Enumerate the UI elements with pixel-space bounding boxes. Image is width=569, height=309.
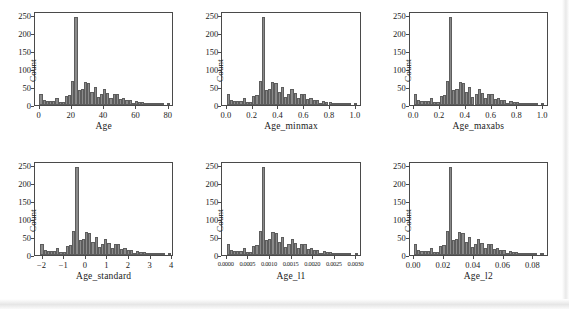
y-axis-label: Count <box>28 209 38 232</box>
y-tick-mark <box>406 166 409 167</box>
x-tick-mark <box>312 256 313 259</box>
x-tick-label: 0.0025 <box>326 260 342 267</box>
x-tick-mark <box>491 106 492 109</box>
x-tick-mark <box>103 106 104 109</box>
y-axis-label: Count <box>28 59 38 82</box>
histogram-bar <box>348 253 351 255</box>
x-tick-label: 0.6 <box>298 110 309 120</box>
y-tick-label: 150 <box>206 47 219 57</box>
y-tick-label: 150 <box>393 47 406 57</box>
y-tick-label: 250 <box>393 11 406 21</box>
subplot-cell: 050100150200250 0.00.20.40.60.81.0 Count… <box>187 0 374 150</box>
x-tick-label: 0.0015 <box>283 260 299 267</box>
x-axis-label: Age_maxabs <box>453 121 505 131</box>
y-tick-mark <box>406 238 409 239</box>
x-tick-mark <box>465 106 466 109</box>
x-tick-label: 0 <box>36 110 40 120</box>
y-tick-label: 250 <box>393 161 406 171</box>
y-tick-label: 50 <box>397 83 406 93</box>
y-tick-mark <box>31 256 34 257</box>
y-tick-mark <box>31 106 34 107</box>
plot-frame <box>409 12 548 106</box>
x-tick-label: 0.08 <box>525 260 540 270</box>
subplot-age-l1: 050100150200250 0.00000.00050.00100.0015… <box>221 162 360 256</box>
y-tick-label: 200 <box>206 29 219 39</box>
x-tick-mark <box>516 106 517 109</box>
x-tick-mark <box>168 106 169 109</box>
y-tick-mark <box>31 166 34 167</box>
x-tick-label: 0 <box>83 260 87 270</box>
histogram-bar <box>354 103 357 105</box>
histogram-bar <box>534 253 537 255</box>
plot-frame <box>34 162 173 256</box>
subplot-cell: 050100150200250 0.00.20.40.60.81.0 Count… <box>375 0 562 150</box>
y-tick-mark <box>406 256 409 257</box>
x-tick-label: 0.6 <box>485 110 496 120</box>
x-tick-mark <box>269 256 270 259</box>
x-tick-label: 1.0 <box>350 110 361 120</box>
y-tick-mark <box>406 106 409 107</box>
x-tick-label: 3 <box>147 260 151 270</box>
y-tick-mark <box>31 184 34 185</box>
x-tick-label: 2 <box>126 260 130 270</box>
x-tick-label: 0.4 <box>272 110 283 120</box>
histogram-bar <box>535 103 538 105</box>
y-tick-label: 200 <box>393 179 406 189</box>
histogram-bar <box>355 253 358 255</box>
x-tick-mark <box>413 106 414 109</box>
x-tick-mark <box>247 256 248 259</box>
subplot-cell: 050100150200250 020406080 Count Age <box>0 0 187 150</box>
x-tick-mark <box>226 256 227 259</box>
x-tick-mark <box>355 256 356 259</box>
histogram-bars <box>35 163 172 255</box>
y-tick-label: 150 <box>206 197 219 207</box>
x-tick-label: 20 <box>67 110 76 120</box>
y-tick-mark <box>218 88 221 89</box>
y-tick-label: 200 <box>393 29 406 39</box>
x-tick-label: 0.4 <box>459 110 470 120</box>
subplot-age-minmax: 050100150200250 0.00.20.40.60.81.0 Count… <box>221 12 360 106</box>
x-tick-mark <box>355 106 356 109</box>
x-tick-mark <box>39 106 40 109</box>
x-tick-mark <box>252 106 253 109</box>
x-tick-label: 4 <box>169 260 173 270</box>
subplot-age-l2: 050100150200250 0.000.020.040.060.08 Cou… <box>409 162 548 256</box>
subplot-age-maxabs: 050100150200250 0.00.20.40.60.81.0 Count… <box>409 12 548 106</box>
subplot-cell: 050100150200250 0.000.020.040.060.08 Cou… <box>375 150 562 300</box>
x-tick-label: 80 <box>163 110 172 120</box>
x-axis-label: Age_standard <box>76 271 131 281</box>
histogram-bars <box>35 13 172 105</box>
y-tick-label: 150 <box>18 197 31 207</box>
x-tick-mark <box>439 106 440 109</box>
histogram-bar <box>540 253 543 255</box>
x-tick-label: 0.0 <box>408 110 419 120</box>
x-tick-mark <box>226 106 227 109</box>
y-tick-label: 150 <box>393 197 406 207</box>
x-tick-mark <box>63 256 64 259</box>
x-tick-mark <box>542 106 543 109</box>
x-tick-mark <box>413 256 414 259</box>
x-tick-label: 0.04 <box>465 260 480 270</box>
subplot-grid: 050100150200250 020406080 Count Age 0501… <box>0 0 562 300</box>
x-tick-label: −1 <box>59 260 68 270</box>
y-tick-label: 250 <box>18 11 31 21</box>
y-axis-label: Count <box>403 209 413 232</box>
y-tick-mark <box>31 34 34 35</box>
x-tick-label: 1.0 <box>537 110 548 120</box>
histogram-bar <box>162 253 165 255</box>
y-tick-label: 50 <box>210 83 219 93</box>
y-axis-label: Count <box>215 209 225 232</box>
x-tick-label: 60 <box>131 110 140 120</box>
histogram-bar <box>167 103 170 105</box>
x-tick-mark <box>135 106 136 109</box>
histogram-bar <box>541 103 544 105</box>
x-tick-label: 0.2 <box>246 110 257 120</box>
plot-frame <box>409 162 548 256</box>
y-tick-label: 200 <box>206 179 219 189</box>
y-tick-mark <box>218 34 221 35</box>
y-tick-mark <box>406 16 409 17</box>
y-tick-label: 50 <box>210 233 219 243</box>
y-tick-label: 250 <box>206 161 219 171</box>
x-tick-mark <box>503 256 504 259</box>
x-axis-label: Age <box>95 121 111 131</box>
